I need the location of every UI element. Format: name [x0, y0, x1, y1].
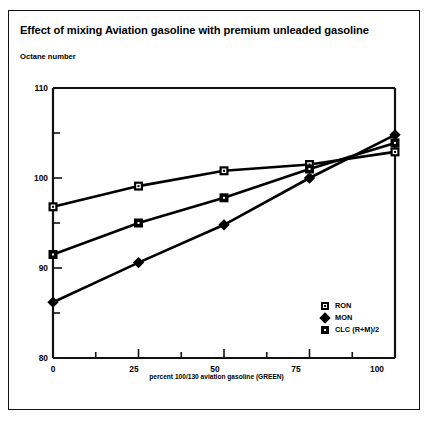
plot-area — [0, 0, 433, 422]
data-point-clc-r-m-2-50 — [220, 193, 229, 202]
chart-legend: RON MON CLC (R+M)/2 — [318, 300, 379, 336]
data-point-mon-50 — [218, 219, 229, 230]
data-point-clc-r-m-2-25 — [134, 219, 143, 228]
data-point-ron-25 — [134, 182, 143, 191]
legend-item-mon: MON — [318, 312, 379, 323]
data-point-mon-75 — [304, 172, 315, 183]
filled-diamond-marker-icon — [318, 312, 332, 323]
legend-label-ron: RON — [335, 301, 351, 310]
data-point-ron-50 — [220, 166, 229, 175]
legend-label-mon: MON — [335, 313, 352, 322]
legend-label-clc: CLC (R+M)/2 — [335, 325, 379, 334]
legend-item-clc: CLC (R+M)/2 — [318, 324, 379, 335]
data-point-ron-100 — [391, 147, 400, 156]
filled-square-marker-icon — [318, 324, 332, 335]
data-point-clc-r-m-2-0 — [49, 250, 58, 259]
data-point-clc-r-m-2-75 — [305, 165, 314, 174]
data-point-ron-0 — [49, 202, 58, 211]
data-series-layer — [47, 129, 400, 308]
data-point-clc-r-m-2-100 — [391, 138, 400, 147]
data-point-mon-0 — [47, 297, 58, 308]
chart-page: Effect of mixing Aviation gasoline with … — [0, 0, 433, 422]
data-point-mon-25 — [133, 257, 144, 268]
open-square-marker-icon — [318, 300, 332, 311]
legend-item-ron: RON — [318, 300, 379, 311]
